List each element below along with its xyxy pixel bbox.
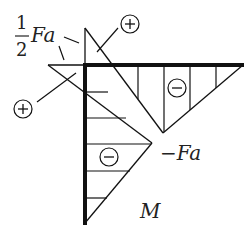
top-triangle-diagonal xyxy=(85,28,163,133)
leader-line xyxy=(37,73,76,102)
plus-sign-left xyxy=(14,100,32,118)
leader-line xyxy=(97,28,118,52)
half-fraction-denominator: 2 xyxy=(16,39,27,60)
minus-sign-right xyxy=(168,79,186,97)
diagram-name-M: M xyxy=(139,199,161,223)
half-Fa-label: Fa xyxy=(30,23,55,47)
minus-sign-lower xyxy=(100,148,118,166)
half-fraction-numerator: 1 xyxy=(16,12,27,33)
leader-line xyxy=(59,46,64,60)
bending-moment-diagram: 1 2 Fa −Fa M xyxy=(0,0,252,234)
plus-sign-top xyxy=(121,15,139,33)
left-triangle-diagonal xyxy=(48,65,152,143)
right-triangle-diagonal xyxy=(163,65,243,133)
neg-Fa-label: −Fa xyxy=(160,141,201,165)
leader-line xyxy=(64,37,79,43)
